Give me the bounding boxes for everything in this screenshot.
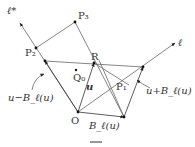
point-r [93,62,96,65]
label-p3: P₃ [78,11,89,21]
point-o [77,111,80,114]
segment-p3-b [75,22,124,117]
point-u-plus-b [142,66,145,69]
label-ell: ℓ [178,38,182,48]
label-p1: P₁ [116,82,127,92]
callout-u-minus-b [32,74,44,90]
label-ell-star: ℓ* [7,6,16,16]
label-u-plus-b: u+B_ℓ(u) [146,86,192,96]
label-r: R [91,52,99,62]
label-u-minus-b: u−B_ℓ(u) [8,93,54,103]
point-q0 [75,69,77,71]
label-o: O [71,116,79,126]
label-q0: Q₀ [73,73,85,83]
point-u-minus-b [44,60,47,63]
label-p2: P₂ [25,48,36,58]
vector-u-minus-b [45,61,78,112]
point-b-end [123,116,126,119]
point-p3 [74,21,77,24]
segment-p2-p3 [36,22,75,48]
vector-b [78,112,124,117]
label-u: u [86,82,93,92]
vector-u-plus-b [124,67,143,117]
label-b: B_ℓ(u) [89,121,120,131]
